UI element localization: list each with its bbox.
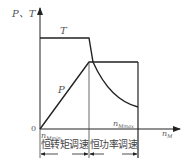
x-axis-label: nM xyxy=(162,129,173,139)
torque-label: T xyxy=(60,25,68,36)
power-label: P xyxy=(57,84,65,95)
max-speed-label: nMmax xyxy=(113,119,134,129)
constant-power-region-label: 恒功率调速 xyxy=(90,138,138,150)
y-axis-label: P、T xyxy=(11,8,37,19)
constant-torque-region-label: 恒转矩调速 xyxy=(41,138,89,150)
origin-label: 0 xyxy=(31,124,36,133)
speed-regulation-diagram: P、T T P 0 nMmin nMmax nM 恒转矩调速 恒功率调速 xyxy=(0,0,188,168)
